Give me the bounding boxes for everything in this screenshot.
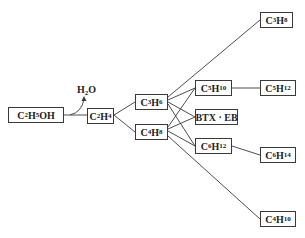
node-c4h8: C4H8 [135, 124, 168, 140]
node-btxeb: BTX · EB [195, 109, 238, 125]
node-c6h12: C6H12 [195, 138, 232, 154]
node-c2h4: C2H4 [87, 108, 114, 124]
node-c3h6: C3H6 [135, 94, 168, 110]
node-c5h12: C5H12 [260, 80, 296, 96]
edge-c4h8-btx [168, 117, 195, 129]
node-c3h8: C3H8 [260, 12, 293, 28]
edge-c6h12-c6h14 [232, 146, 260, 155]
node-c4h10: C4H10 [260, 211, 296, 227]
edge-c2h4-c4h8 [114, 115, 135, 132]
node-c6h14: C6H14 [260, 147, 296, 163]
node-c5h10: C5H10 [195, 80, 232, 96]
water-elimination-arrow [70, 99, 84, 115]
byproduct-h2o-label: H2O [77, 84, 96, 95]
edge-c2h4-c3h6 [114, 102, 135, 115]
node-c2h5oh: C2H5OH [8, 107, 64, 123]
edge-c4h8-c6h12 [168, 131, 195, 146]
